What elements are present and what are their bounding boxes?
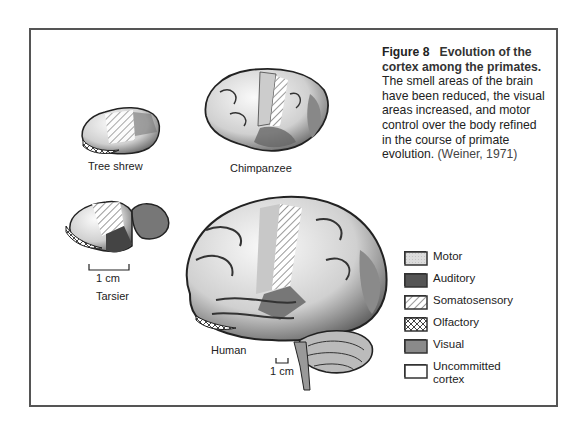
chimpanzee-label: Chimpanzee bbox=[230, 162, 292, 174]
caption-line: in the course of primate bbox=[382, 133, 557, 148]
legend-label-line2: cortex bbox=[433, 373, 464, 385]
human-label: Human bbox=[211, 344, 246, 356]
caption-line: have been reduced, the visual bbox=[382, 89, 557, 104]
figure-title-line1: Evolution of the bbox=[440, 45, 532, 59]
motor-swatch-icon bbox=[404, 251, 426, 264]
legend-item-auditory: Auditory bbox=[404, 272, 513, 294]
tarsier-label: Tarsier bbox=[96, 290, 129, 302]
chimpanzee-brain-illustration bbox=[200, 64, 332, 156]
caption-line: The smell areas of the brain bbox=[382, 74, 557, 89]
citation: (Weiner, 1971) bbox=[438, 147, 518, 161]
tree-shrew-label: Tree shrew bbox=[88, 160, 143, 172]
auditory-swatch-icon bbox=[404, 273, 426, 286]
figure-number: Figure 8 bbox=[382, 45, 429, 59]
legend-label: Somatosensory bbox=[433, 294, 513, 306]
tarsier-scale-label: 1 cm bbox=[96, 272, 120, 284]
olfactory-swatch-icon bbox=[404, 317, 426, 330]
legend-label: Auditory bbox=[433, 272, 475, 284]
figure-caption: Figure 8 Evolution of the cortex among t… bbox=[382, 45, 557, 162]
legend-label: Motor bbox=[433, 250, 462, 262]
legend-label: Uncommitted bbox=[433, 360, 501, 372]
uncommitted-swatch-icon bbox=[404, 364, 426, 377]
legend-item-uncommitted: Uncommitted cortex bbox=[404, 360, 513, 390]
somatosensory-swatch-icon bbox=[404, 295, 426, 308]
legend-item-motor: Motor bbox=[404, 250, 513, 272]
caption-line: control over the body refined bbox=[382, 118, 557, 133]
human-scale-label: 1 cm bbox=[270, 365, 294, 377]
caption-line: evolution. bbox=[382, 147, 434, 161]
tree-shrew-brain-illustration bbox=[75, 100, 165, 160]
legend-label: Visual bbox=[433, 338, 464, 350]
tarsier-brain-illustration bbox=[62, 196, 172, 262]
legend-item-visual: Visual bbox=[404, 338, 513, 360]
legend-item-olfactory: Olfactory bbox=[404, 316, 513, 338]
human-scale-bar bbox=[275, 358, 289, 365]
figure-title-line2: cortex among the primates. bbox=[382, 60, 557, 75]
legend-label: Olfactory bbox=[433, 316, 479, 328]
legend-item-somatosensory: Somatosensory bbox=[404, 294, 513, 316]
caption-line: areas increased, and motor bbox=[382, 103, 557, 118]
visual-swatch-icon bbox=[404, 339, 426, 352]
legend: Motor Auditory Somatosensory Olfactory V… bbox=[404, 250, 513, 390]
tarsier-scale-bar bbox=[88, 264, 130, 272]
